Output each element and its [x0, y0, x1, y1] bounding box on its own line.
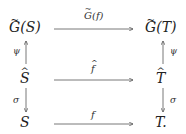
node-G-tilde-S: ~G(S) — [9, 20, 41, 34]
label-f-hat: ^f — [91, 64, 95, 74]
label-arg: (f) — [92, 10, 104, 21]
node-T: T. — [155, 115, 167, 129]
label-right-sigma: σ — [170, 96, 176, 105]
tilde-accent: ~ — [145, 15, 156, 25]
node-T-hat: ^T — [156, 71, 165, 85]
tilde-accent: ~ — [9, 15, 20, 25]
label-left-sigma: σ — [13, 96, 19, 105]
node-G-tilde-T: ~G(T) — [145, 20, 176, 34]
label-f: f — [91, 110, 95, 120]
node-arg: (S) — [20, 19, 41, 35]
hat-accent: ^ — [91, 59, 95, 67]
node-S: S — [20, 115, 30, 129]
label-right-psi: ψ — [170, 47, 177, 56]
label-left-psi: ψ — [13, 47, 20, 56]
hat-accent: ^ — [20, 66, 30, 76]
hat-accent: ^ — [156, 66, 165, 76]
label-G-tilde-f: ~G(f) — [84, 11, 104, 21]
node-arg: (T) — [156, 19, 176, 35]
node-S-hat: ^S — [20, 71, 30, 85]
tilde-accent: ~ — [84, 6, 92, 14]
